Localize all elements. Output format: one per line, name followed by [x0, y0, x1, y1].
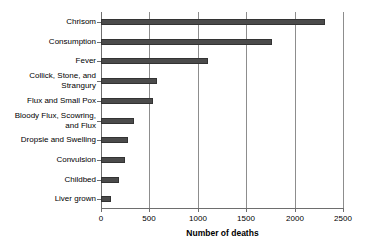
bar-bloody-flux-scowring-and-flux — [101, 118, 134, 124]
x-tick-label-2500: 2500 — [323, 214, 363, 224]
bar-convulsion — [101, 157, 125, 163]
x-tick-label-0: 0 — [81, 214, 121, 224]
y-tick-label-bloody-flux-scowring-and-flux: Bloody Flux, Scowring, and Flux — [15, 111, 96, 130]
x-axis-title: Number of deaths — [101, 228, 344, 238]
x-tick-mark — [149, 208, 150, 212]
x-tick-label-2000: 2000 — [275, 214, 315, 224]
bar-childbed — [101, 177, 119, 183]
bar-chrisom — [101, 19, 325, 25]
y-tick-label-convulsion: Convulsion — [56, 155, 96, 165]
bar-consumption — [101, 39, 272, 45]
x-tick-label-500: 500 — [129, 214, 169, 224]
bar-chart: Chrisom Consumption Fever Collick, Stone… — [0, 0, 368, 247]
x-tick-mark — [198, 208, 199, 212]
y-tick-label-childbed: Childbed — [64, 175, 96, 185]
x-tick-mark — [295, 208, 296, 212]
gridline-2500 — [343, 12, 344, 208]
y-tick-label-chrisom: Chrisom — [66, 17, 96, 27]
x-axis-line — [101, 208, 344, 209]
plot-area — [101, 12, 343, 208]
y-tick-label-dropsie-and-swelling: Dropsie and Swelling — [21, 135, 96, 145]
y-tick-label-collick-stone-strangury: Collick, Stone, and Strangury — [29, 71, 96, 90]
bar-flux-and-small-pox — [101, 98, 153, 104]
y-tick-label-fever: Fever — [76, 56, 96, 66]
bar-dropsie-and-swelling — [101, 137, 128, 143]
gridline-2000 — [295, 12, 296, 208]
y-axis-labels: Chrisom Consumption Fever Collick, Stone… — [0, 0, 96, 247]
bar-fever — [101, 58, 208, 64]
bar-collick-stone-strangury — [101, 78, 157, 84]
x-tick-label-1000: 1000 — [178, 214, 218, 224]
x-tick-mark — [101, 208, 102, 212]
y-tick-label-liver-grown: Liver grown — [55, 194, 96, 204]
y-tick-label-consumption: Consumption — [49, 37, 96, 47]
y-tick-label-flux-and-small-pox: Flux and Small Pox — [27, 96, 96, 106]
x-tick-label-1500: 1500 — [226, 214, 266, 224]
x-tick-mark — [343, 208, 344, 212]
bar-liver-grown — [101, 196, 111, 202]
x-tick-mark — [246, 208, 247, 212]
